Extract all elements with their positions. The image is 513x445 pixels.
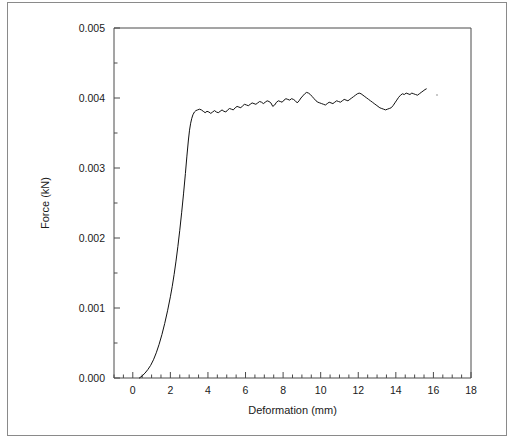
- page-root: 0246810121416180.0000.0010.0020.0030.004…: [0, 0, 513, 445]
- y-axis-title: Force (kN): [39, 177, 51, 229]
- x-tick-label: 2: [167, 384, 173, 396]
- y-tick-label: 0.005: [79, 22, 105, 34]
- axis-labels-group: 0246810121416180.0000.0010.0020.0030.004…: [39, 22, 477, 416]
- axis-spines: [114, 28, 471, 378]
- x-tick-label: 12: [352, 384, 364, 396]
- axes-group: [114, 28, 471, 378]
- x-axis-title: Deformation (mm): [248, 404, 337, 416]
- data-series-line: [139, 89, 426, 378]
- axis-frame-top-right: [114, 28, 471, 378]
- y-tick-label: 0.000: [79, 372, 105, 384]
- x-tick-label: 18: [465, 384, 477, 396]
- force-deformation-chart: 0246810121416180.0000.0010.0020.0030.004…: [0, 0, 513, 445]
- x-tick-label: 16: [428, 384, 440, 396]
- y-tick-label: 0.004: [79, 92, 105, 104]
- y-tick-label: 0.001: [79, 302, 105, 314]
- x-tick-label: 0: [130, 384, 136, 396]
- y-tick-label: 0.003: [79, 162, 105, 174]
- chart-svg: 0246810121416180.0000.0010.0020.0030.004…: [0, 0, 513, 445]
- x-tick-label: 10: [315, 384, 327, 396]
- x-tick-label: 4: [205, 384, 211, 396]
- x-tick-label: 8: [280, 384, 286, 396]
- x-tick-label: 6: [243, 384, 249, 396]
- series-group: [139, 89, 426, 378]
- y-tick-label: 0.002: [79, 232, 105, 244]
- stray-data-point: [436, 94, 438, 96]
- x-tick-label: 14: [390, 384, 402, 396]
